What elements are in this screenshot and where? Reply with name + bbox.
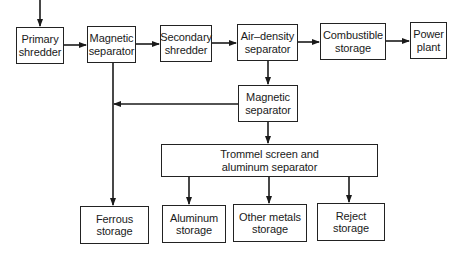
node-label: Power plant	[413, 28, 444, 53]
node-label: Trommel screen and aluminum separator	[220, 148, 319, 173]
node-air-density-separator: Air–density separator	[237, 24, 298, 61]
node-label: Magnetic separator	[89, 32, 135, 57]
node-label: Combustible storage	[323, 29, 383, 54]
node-secondary-shredder: Secondary shredder	[160, 25, 212, 62]
connector-lines	[0, 0, 461, 255]
node-label: Secondary shredder	[160, 31, 212, 56]
node-reject-storage: Reject storage	[317, 203, 385, 241]
node-label: Primary shredder	[19, 33, 62, 58]
node-aluminum-storage: Aluminum storage	[162, 205, 226, 243]
node-ferrous-storage: Ferrous storage	[80, 206, 149, 244]
node-primary-shredder: Primary shredder	[16, 27, 64, 64]
node-label: Other metals storage	[239, 211, 301, 236]
node-label: Aluminum storage	[170, 212, 218, 237]
node-trommel-screen: Trommel screen and aluminum separator	[161, 144, 378, 177]
node-label: Air–density separator	[241, 30, 294, 55]
node-label: Reject storage	[333, 210, 369, 235]
node-label: Ferrous storage	[96, 213, 133, 238]
node-power-plant: Power plant	[410, 22, 447, 59]
node-magnetic-separator-1: Magnetic separator	[87, 26, 136, 63]
node-combustible-storage: Combustible storage	[320, 23, 386, 60]
node-other-metals-storage: Other metals storage	[233, 204, 307, 242]
node-label: Magnetic separator	[245, 91, 291, 116]
node-magnetic-separator-2: Magnetic separator	[238, 85, 298, 122]
